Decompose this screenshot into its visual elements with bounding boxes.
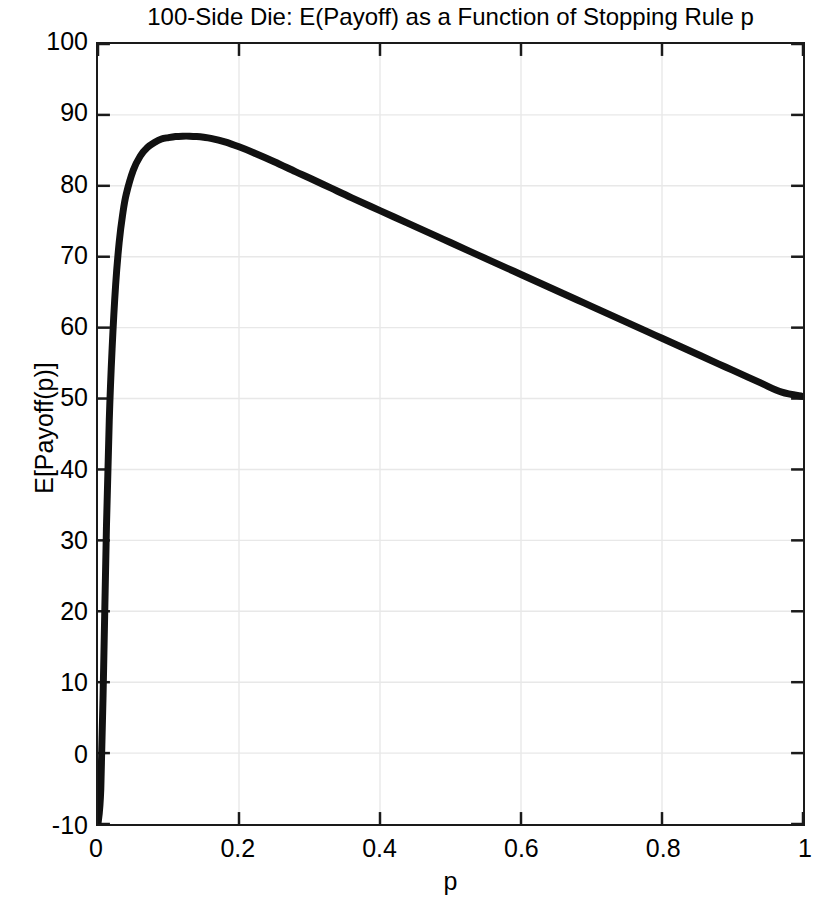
y-axis-label: E[Payoff(p)] <box>30 288 58 568</box>
x-tick-label: 1 <box>765 836 816 861</box>
y-tick-label: 10 <box>8 670 88 695</box>
data-series-line <box>98 136 803 824</box>
x-tick-label: 0.2 <box>198 836 278 861</box>
x-tick-label: 0.6 <box>481 836 561 861</box>
y-tick-label: 80 <box>8 172 88 197</box>
y-tick-label: 90 <box>8 100 88 125</box>
chart-title: 100-Side Die: E(Payoff) as a Function of… <box>96 2 805 32</box>
y-tick-label: 20 <box>8 599 88 624</box>
grid-lines <box>98 44 803 824</box>
x-tick-label: 0.8 <box>623 836 703 861</box>
tick-marks <box>98 44 803 824</box>
y-tick-label: 100 <box>8 29 88 54</box>
y-tick-label: -10 <box>8 813 88 838</box>
y-tick-label: 70 <box>8 243 88 268</box>
plot-svg <box>98 44 803 824</box>
x-tick-label: 0.4 <box>340 836 420 861</box>
x-tick-label: 0 <box>56 836 136 861</box>
plot-area <box>96 42 805 826</box>
x-axis-label: p <box>96 866 805 896</box>
y-tick-label: 0 <box>8 742 88 767</box>
